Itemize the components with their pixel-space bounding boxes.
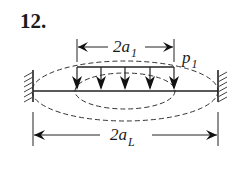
bottom-dimension-label: 2aL xyxy=(110,125,135,149)
top-dimension-label: 2a1 xyxy=(113,37,137,60)
load-arrow-icon xyxy=(169,67,179,90)
load-label: p1 xyxy=(181,48,198,71)
load-arrow-icon xyxy=(72,67,82,90)
beam-load-diagram: 12. xyxy=(0,0,243,176)
problem-number: 12. xyxy=(20,9,46,33)
load-arrow-icon xyxy=(96,67,106,90)
right-fixed-support xyxy=(218,70,227,102)
left-fixed-support xyxy=(24,70,33,102)
load-arrow-icon xyxy=(145,67,155,90)
load-arrow-icon xyxy=(120,67,130,90)
